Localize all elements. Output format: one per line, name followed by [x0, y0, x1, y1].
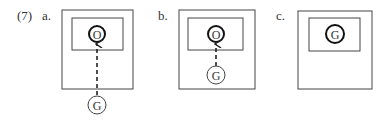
- diagram-canvas: O G O G G: [0, 0, 390, 125]
- panel-b-node-o-label: O: [212, 28, 221, 42]
- panel-a-node-o-label: O: [93, 28, 102, 42]
- panel-c: G: [298, 11, 372, 89]
- panel-a: O G: [62, 10, 133, 114]
- panel-b: O G: [179, 10, 255, 89]
- panel-c-node-g-label: G: [331, 28, 340, 42]
- panel-b-node-g-label: G: [212, 69, 221, 83]
- panel-a-node-g-label: G: [93, 99, 102, 113]
